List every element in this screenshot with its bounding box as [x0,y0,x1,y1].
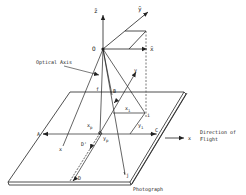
label-x-flight: x [188,135,191,141]
label-z-bar: z̄ [94,7,98,14]
label-B: B [113,88,116,94]
label-x-bar: x̄ [150,45,154,52]
label-direction-line2: Flight [200,136,218,143]
label-point-i: i [147,112,150,118]
label-D-prime: D' [81,141,87,147]
label-j: j [126,172,129,179]
label-optical-axis: Optical Axis [36,59,72,66]
label-origin: O [92,45,96,52]
diagram-canvas: z̄ ȳ x̄ O Optical Axis f B y xi i yi xp … [0,0,246,195]
label-A: A [37,131,40,137]
optical-axis-leader [64,66,99,75]
parallelogram-diag [129,31,146,49]
y-bar-axis [103,12,148,49]
label-direction-line1: Direction of [200,129,236,135]
label-y-bar: ȳ [138,5,142,13]
photograph-plate [8,92,187,185]
label-C: C [155,127,158,133]
label-y-axis: y [134,67,137,74]
photogrammetry-diagram: z̄ ȳ x̄ O Optical Axis f B y xi i yi xp … [0,0,246,195]
label-focal-length: f [96,86,99,92]
label-x-small: x [59,146,62,152]
label-photograph: Photograph [133,186,163,193]
label-D: D [78,175,81,181]
